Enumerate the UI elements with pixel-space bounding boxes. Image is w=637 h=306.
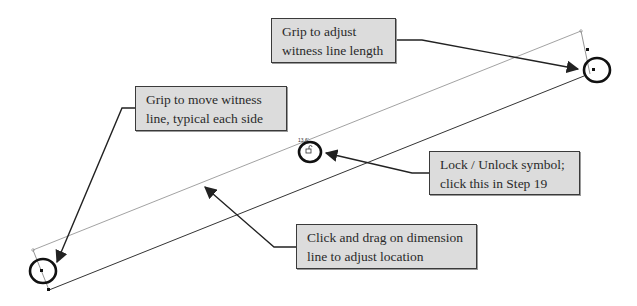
callout-text-line: Lock / Unlock symbol; [440, 155, 569, 174]
callout-text-line: line to adjust location [307, 247, 466, 266]
callout-text-line: line, typical each side [146, 109, 276, 128]
grip-handle-icon[interactable] [592, 68, 595, 71]
leader-arrow-move-witness [57, 108, 135, 262]
leader-arrow-witness-length [396, 40, 578, 69]
callout-text-line: Grip to move witness [146, 90, 276, 109]
highlight-circle-lock [299, 142, 321, 162]
callout-witness-length: Grip to adjust witness line length [271, 18, 396, 63]
callout-text-line: Grip to adjust [282, 22, 385, 41]
callout-move-witness: Grip to move witness line, typical each … [135, 86, 287, 131]
leader-arrow-lock [326, 153, 429, 173]
leader-arrow-drag [205, 187, 296, 247]
callout-drag-dimension: Click and drag on dimension line to adju… [296, 224, 477, 269]
callout-text-line: Click and drag on dimension [307, 228, 466, 247]
callout-lock-unlock: Lock / Unlock symbol; click this in Step… [429, 151, 580, 195]
callout-text-line: witness line length [282, 41, 385, 60]
grip-handle-icon[interactable] [40, 269, 43, 272]
lock-unlock-icon[interactable] [306, 146, 312, 154]
grip-handle-icon[interactable] [47, 288, 50, 291]
callout-text-line: click this in Step 19 [440, 174, 569, 193]
grip-handle-icon[interactable] [586, 48, 589, 51]
highlight-circle-right-grip [584, 58, 610, 82]
dimension-value: 13.6' [298, 137, 309, 143]
